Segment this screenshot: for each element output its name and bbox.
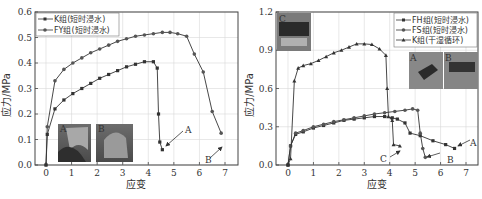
- circle-marker-icon: [373, 112, 377, 116]
- circle-marker-icon: [219, 131, 223, 135]
- right-inset-label-b: B: [445, 53, 452, 63]
- right-inset-photo-c: C: [277, 13, 311, 51]
- circle-marker-icon: [416, 108, 420, 112]
- right-x-axis-label: 应变: [367, 178, 387, 190]
- legend-circle-marker-icon: [43, 28, 47, 32]
- circle-marker-icon: [301, 129, 305, 133]
- square-marker-icon: [62, 98, 65, 101]
- square-marker-icon: [408, 132, 411, 135]
- circle-marker-icon: [193, 52, 197, 56]
- left-x-tick-3: 3: [120, 168, 126, 178]
- right-annotation-a: A: [469, 138, 477, 148]
- square-marker-icon: [125, 65, 128, 68]
- right-series-line-1: [288, 109, 425, 165]
- circle-marker-icon: [98, 47, 102, 51]
- square-marker-icon: [403, 121, 406, 124]
- circle-marker-icon: [107, 43, 111, 47]
- right-arrow-c: [390, 151, 400, 157]
- square-marker-icon: [98, 77, 101, 80]
- square-marker-icon: [134, 63, 137, 66]
- left-x-tick-6: 6: [197, 168, 203, 178]
- left-inset-label-a: A: [59, 124, 67, 134]
- circle-marker-icon: [418, 131, 422, 135]
- left-y-tick-0.4: 0.4: [18, 58, 33, 68]
- circle-marker-icon: [80, 56, 84, 60]
- circle-marker-icon: [185, 34, 189, 38]
- square-marker-icon: [116, 69, 119, 72]
- right-y-tick-0.9: 0.9: [259, 45, 274, 55]
- left-y-tick-0.3: 0.3: [18, 84, 33, 94]
- square-marker-icon: [453, 147, 456, 150]
- legend-circle-marker-icon: [402, 28, 406, 32]
- square-marker-icon: [161, 148, 164, 151]
- circle-marker-icon: [53, 79, 57, 83]
- left-y-axis-label: 应力/MPa: [0, 73, 12, 117]
- right-x-tick-labels: 01234567: [285, 168, 469, 178]
- right-x-tick-7: 7: [463, 168, 469, 178]
- square-marker-icon: [431, 139, 434, 142]
- right-x-tick-4: 4: [387, 168, 393, 178]
- circle-marker-icon: [411, 107, 415, 111]
- square-marker-icon: [71, 92, 74, 95]
- left-inset-photo-a: A: [58, 124, 91, 162]
- left-inset-photo-b: B: [96, 124, 133, 162]
- left-arrow-b: [210, 147, 222, 158]
- square-marker-icon: [107, 73, 110, 76]
- square-marker-icon: [53, 107, 56, 110]
- circle-marker-icon: [424, 156, 428, 160]
- circle-marker-icon: [62, 68, 66, 72]
- square-marker-icon: [143, 60, 146, 63]
- right-annotation-b: B: [447, 155, 454, 165]
- left-legend-item-k: K组(短时浸水): [54, 14, 106, 24]
- left-chart: 0.00.10.20.30.40.50.6 01234567 应力/MPa 应变…: [0, 7, 238, 190]
- triangle-marker-icon: [378, 47, 382, 51]
- right-inset-photo-b: B: [444, 52, 478, 89]
- triangle-marker-icon: [292, 79, 296, 83]
- figure: 0.00.10.20.30.40.50.6 01234567 应力/MPa 应变…: [0, 0, 482, 199]
- circle-marker-icon: [201, 70, 205, 74]
- circle-marker-icon: [362, 114, 366, 118]
- legend-square-marker-icon: [44, 18, 47, 21]
- right-y-tick-0.6: 0.6: [259, 84, 274, 94]
- left-annotation-b: B: [205, 155, 212, 165]
- left-y-tick-labels: 0.00.10.20.30.40.50.6: [18, 7, 33, 170]
- right-x-tick-2: 2: [336, 168, 342, 178]
- right-y-axis-label: 应力/MPa: [243, 73, 255, 117]
- right-legend-item-fs: FS组(短时浸水): [412, 25, 468, 35]
- right-legend-item-fh: FH组(短时浸水): [412, 15, 469, 25]
- right-y-tick-1.2: 1.2: [259, 7, 273, 17]
- right-inset-label-a: A: [409, 53, 417, 63]
- right-legend: FH组(短时浸水) FS组(短时浸水) K组(干湿循环): [394, 13, 477, 47]
- circle-marker-icon: [289, 144, 293, 148]
- square-marker-icon: [156, 67, 159, 70]
- circle-marker-icon: [168, 31, 172, 35]
- right-x-tick-3: 3: [361, 168, 367, 178]
- circle-marker-icon: [332, 120, 336, 124]
- right-arrow-b: [427, 153, 440, 157]
- left-arrow-a: [166, 131, 183, 146]
- right-legend-item-k: K组(干湿循环): [412, 35, 464, 45]
- circle-marker-icon: [152, 32, 156, 36]
- triangle-marker-icon: [392, 143, 396, 147]
- circle-marker-icon: [71, 61, 75, 65]
- circle-marker-icon: [322, 122, 326, 126]
- right-inset-label-c: C: [279, 14, 286, 24]
- circle-marker-icon: [352, 116, 356, 120]
- circle-marker-icon: [134, 34, 138, 38]
- right-y-tick-0.3: 0.3: [259, 122, 274, 132]
- left-y-tick-0.6: 0.6: [18, 7, 33, 17]
- square-marker-icon: [80, 87, 83, 90]
- square-marker-icon: [444, 143, 447, 146]
- circle-marker-icon: [421, 147, 425, 151]
- circle-marker-icon: [294, 131, 298, 135]
- circle-marker-icon: [116, 40, 120, 44]
- right-inset-photo-a: A: [409, 52, 443, 89]
- left-x-tick-4: 4: [145, 168, 151, 178]
- left-x-tick-5: 5: [171, 168, 177, 178]
- left-x-tick-2: 2: [94, 168, 100, 178]
- square-marker-icon: [152, 60, 155, 63]
- left-y-tick-0.2: 0.2: [18, 109, 32, 119]
- left-x-axis-label: 应变: [126, 178, 146, 190]
- right-series-line-0: [288, 117, 455, 165]
- circle-marker-icon: [125, 37, 129, 41]
